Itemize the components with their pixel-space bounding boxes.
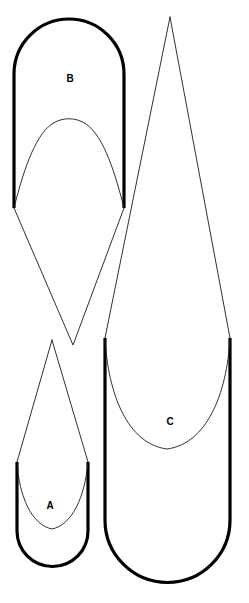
shape-b-label: B (66, 73, 73, 84)
shape-a-label: A (46, 500, 53, 511)
shapes-figure-canvas: C A B (0, 0, 249, 603)
shape-c-label: C (166, 416, 173, 427)
